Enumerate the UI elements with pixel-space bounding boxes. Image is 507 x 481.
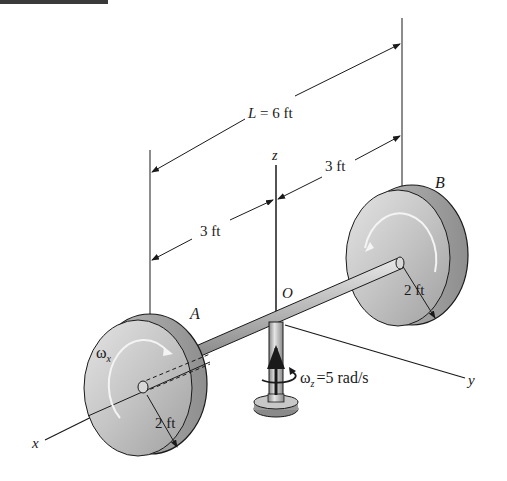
shaft-disk-diagram: L = 6 ft 3 ft 3 ft z y B 2 ft bbox=[0, 0, 507, 481]
z-axis-label: z bbox=[271, 148, 278, 163]
omega-z-label: ωz=5 rad/s bbox=[300, 369, 369, 389]
dim-left-label: 3 ft bbox=[200, 223, 221, 239]
radius-a-label: 2 ft bbox=[155, 415, 176, 431]
support-post bbox=[254, 322, 298, 417]
origin-label: O bbox=[282, 285, 293, 301]
x-axis-label: x bbox=[31, 435, 39, 451]
disk-a bbox=[84, 314, 210, 456]
disk-b-label: B bbox=[435, 174, 445, 191]
disk-a-label: A bbox=[189, 305, 200, 322]
y-axis bbox=[285, 325, 465, 378]
dim-right-label: 3 ft bbox=[325, 158, 346, 174]
radius-b-label: 2 ft bbox=[404, 282, 425, 298]
disk-b bbox=[346, 185, 468, 326]
y-axis-label: y bbox=[466, 372, 475, 388]
length-total-label: L = 6 ft bbox=[247, 105, 294, 121]
